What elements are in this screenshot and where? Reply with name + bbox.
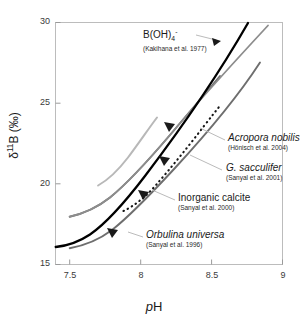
annotation-acropora-reference: (Hönisch et al. 2004) — [228, 143, 300, 152]
annotation-inorganic: Inorganic calcite (Sanyal et al. 2000) — [178, 192, 250, 212]
annotation-orbulina-reference: (Sanyal et al. 1996) — [146, 240, 224, 249]
x-tick-8: 8 — [126, 270, 156, 280]
y-tick-20: 20 — [28, 178, 50, 188]
annotation-acropora-name: Acropora nobilis — [228, 132, 300, 143]
y-tick-15: 15 — [28, 258, 50, 268]
y-axis-title-delta: δ — [7, 152, 21, 159]
y-tick-25: 25 — [28, 97, 50, 107]
chart-figure: 30 25 20 15 7.5 8 8.5 9 pH δ11B (‰) B(OH… — [0, 0, 308, 325]
x-tick-8-5: 8.5 — [197, 270, 227, 280]
y-tick-30: 30 — [28, 16, 50, 26]
annotation-inorganic-reference: (Sanyal et al. 2000) — [178, 203, 250, 212]
y-axis-title: δ11B (‰) — [6, 71, 21, 201]
y-axis-title-unit: B (‰) — [7, 112, 21, 143]
annotation-acropora: Acropora nobilis (Hönisch et al. 2004) — [228, 132, 300, 152]
annotation-inorganic-name: Inorganic calcite — [178, 192, 250, 203]
annotation-boh4-name: B(OH)4- — [143, 26, 207, 44]
annotation-boh4-subscript: 4 — [171, 35, 175, 42]
x-tick-9: 9 — [268, 270, 298, 280]
annotation-sacculifer-name: G. sacculifer — [226, 162, 282, 173]
annotation-orbulina: Orbulina universa (Sanyal et al. 1996) — [146, 229, 224, 249]
annotation-boh4-charge: - — [175, 28, 177, 35]
annotation-boh4-reference: (Kakihana et al. 1977) — [143, 44, 207, 53]
x-axis-title-p: p — [146, 299, 153, 314]
x-tick-7-5: 7.5 — [55, 270, 85, 280]
x-axis-title-h: H — [153, 299, 162, 314]
x-axis-title: pH — [0, 299, 308, 314]
y-axis-title-mass: 11 — [6, 144, 15, 152]
annotation-orbulina-name: Orbulina universa — [146, 229, 224, 240]
annotation-boh4: B(OH)4- (Kakihana et al. 1977) — [143, 26, 207, 53]
annotation-sacculifer: G. sacculifer (Sanyal et al. 2001) — [226, 162, 282, 182]
annotation-sacculifer-reference: (Sanyal et al. 2001) — [226, 173, 282, 182]
